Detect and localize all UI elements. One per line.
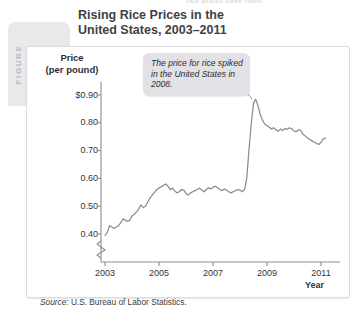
source-body: U.S. Bureau of Labor Statistics. bbox=[69, 297, 187, 307]
y-axis-title-line-2: (per pound) bbox=[36, 64, 108, 76]
y-tick-label-3: 0.60 bbox=[58, 173, 98, 183]
figure-root: rice prices have risen FIGURE 7-4 Rising… bbox=[0, 0, 354, 324]
title-line-2: United States, 2003–2011 bbox=[78, 23, 308, 38]
y-tick-label-0: $0.90 bbox=[58, 90, 98, 100]
y-tick-label-2: 0.70 bbox=[58, 145, 98, 155]
figure-word-label: FIGURE bbox=[14, 38, 23, 92]
y-axis-title-line-1: Price bbox=[36, 52, 108, 64]
source-note: Source: U.S. Bureau of Labor Statistics. bbox=[40, 297, 187, 307]
y-tick-label-4: 0.50 bbox=[58, 201, 98, 211]
y-tick-label-5: 0.40 bbox=[58, 229, 98, 239]
x-tick-label-0: 2003 bbox=[85, 268, 125, 278]
y-axis-title: Price (per pound) bbox=[36, 52, 108, 75]
page-title: Rising Rice Prices in the United States,… bbox=[78, 8, 308, 38]
annotation-callout: The price for rice spiked in the United … bbox=[143, 53, 250, 96]
running-head: rice prices have risen bbox=[186, 0, 336, 4]
y-tick-label-1: 0.80 bbox=[58, 117, 98, 127]
x-tick-label-1: 2005 bbox=[139, 268, 179, 278]
source-label: Source: bbox=[40, 297, 69, 307]
title-line-1: Rising Rice Prices in the bbox=[78, 8, 308, 23]
x-axis-title: Year bbox=[305, 280, 324, 290]
x-tick-label-4: 2011 bbox=[301, 268, 341, 278]
x-tick-label-2: 2007 bbox=[193, 268, 233, 278]
x-tick-label-3: 2009 bbox=[247, 268, 287, 278]
